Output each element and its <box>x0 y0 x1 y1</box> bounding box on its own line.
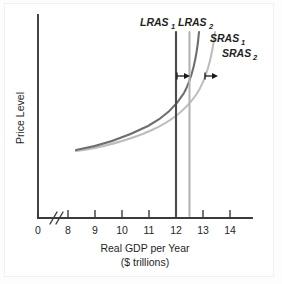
figure-container: 0 8 9 10 11 12 13 14 Real GDP per Year (… <box>0 0 282 284</box>
x-tick-label-12: 12 <box>170 224 182 236</box>
label-sras2-text: SRAS <box>222 47 251 59</box>
label-lras2-text: LRAS <box>178 16 207 28</box>
aggregate-supply-chart: 0 8 9 10 11 12 13 14 Real GDP per Year (… <box>0 0 282 284</box>
label-lras2-sub: 2 <box>208 22 214 31</box>
x-axis-title-line1: Real GDP per Year <box>100 242 190 254</box>
x-tick-label-10: 10 <box>116 224 128 236</box>
label-sras2: SRAS 2 <box>222 47 258 62</box>
label-sras2-sub: 2 <box>252 53 258 62</box>
label-lras1-sub: 1 <box>171 22 175 31</box>
label-sras1: SRAS 1 <box>210 32 245 47</box>
x-tick-label-11: 11 <box>144 224 155 236</box>
y-axis-title: Price Level <box>14 92 26 144</box>
x-tick-label-8: 8 <box>65 224 71 236</box>
label-sras1-text: SRAS <box>210 32 239 44</box>
lras-shift-arrow <box>177 73 190 80</box>
series-line-sras2 <box>76 32 215 151</box>
x-tick-label-13: 13 <box>197 224 209 236</box>
label-sras1-sub: 1 <box>241 38 245 47</box>
label-lras1: LRAS 1 <box>140 16 175 31</box>
x-tick-label-14: 14 <box>224 224 236 236</box>
label-lras2: LRAS 2 <box>178 16 214 31</box>
x-tick-label-0: 0 <box>35 224 41 236</box>
x-tick-label-9: 9 <box>92 224 98 236</box>
series-line-sras1 <box>76 32 199 150</box>
x-axis-title-line2: ($ trillions) <box>121 256 169 268</box>
label-lras1-text: LRAS <box>140 16 169 28</box>
